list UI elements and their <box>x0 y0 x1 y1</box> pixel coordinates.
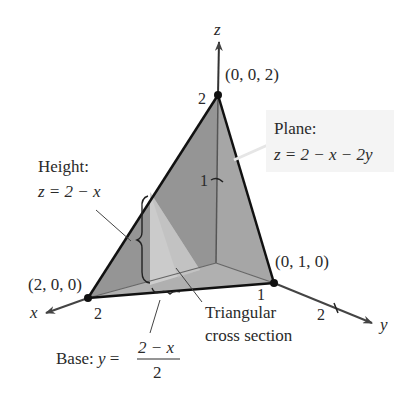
height-leader <box>96 210 131 241</box>
base-prefix: Base: <box>56 349 98 368</box>
cross-section-line1: Triangular <box>205 303 276 322</box>
plane-equation: z = 2 − x − 2y <box>273 145 373 164</box>
plane-leader <box>234 144 270 160</box>
z-axis <box>218 42 219 95</box>
vertex-x <box>84 294 92 302</box>
y-tick-label-1: 1 <box>257 286 265 303</box>
height-equation: z = 2 − x <box>37 182 101 201</box>
cross-section-line2: cross section <box>205 326 293 345</box>
z-tick-label-1: 1 <box>200 172 208 189</box>
y-axis-label: y <box>378 315 388 334</box>
x-axis-label: x <box>29 303 38 322</box>
z-axis-label: z <box>213 20 221 39</box>
plane-title: Plane: <box>274 119 317 138</box>
x-tick-label-2: 2 <box>94 305 102 322</box>
x-axis <box>46 298 88 313</box>
base-leader <box>150 300 160 333</box>
y-intercept-label: (0, 1, 0) <box>275 252 329 271</box>
tetrahedron-diagram: z x y 2 1 2 1 2 (0, 0, 2) (2, 0, 0) (0, … <box>0 0 418 399</box>
base-denominator: 2 <box>153 363 162 382</box>
height-title: Height: <box>38 157 89 176</box>
y-tick-label-2: 2 <box>317 306 325 323</box>
base-numerator: 2 − x <box>138 338 174 357</box>
apex-point-label: (0, 0, 2) <box>225 65 279 84</box>
base-var: y <box>96 349 106 368</box>
base-equals: = <box>106 349 120 368</box>
base-label: Base: y = <box>56 349 119 368</box>
vertex-y <box>270 279 278 287</box>
z-tick-label-2: 2 <box>198 90 206 107</box>
x-intercept-label: (2, 0, 0) <box>28 275 82 294</box>
vertex-apex <box>214 91 222 99</box>
diagram-canvas: z x y 2 1 2 1 2 (0, 0, 2) (2, 0, 0) (0, … <box>0 0 418 399</box>
